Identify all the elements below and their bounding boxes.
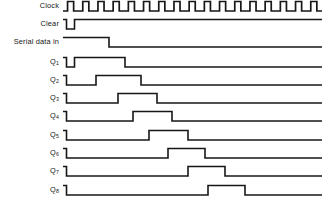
timing-diagram-canvas: ClockClearSerial data inQ1Q2Q3Q4Q5Q6Q7Q8 [0,0,324,212]
timing-diagram: ClockClearSerial data inQ1Q2Q3Q4Q5Q6Q7Q8 [0,0,324,212]
waveform-clear [63,20,322,30]
waveform-q3 [63,94,322,104]
signal-label-serial-data-in: Serial data in [14,37,59,46]
signal-label-subscript-q7: 7 [56,170,59,176]
signal-label-subscript-q4: 4 [56,115,59,121]
signal-label-q6: Q6 [50,148,59,157]
signal-label-subscript-q2: 2 [56,79,59,85]
signal-label-q4: Q4 [50,111,59,120]
waveform-q8 [63,186,322,196]
signal-label-clock: Clock [40,1,59,10]
waveform-q4 [63,112,322,122]
waveform-column [63,2,322,196]
signal-label-q7: Q7 [50,166,59,175]
signal-label-subscript-q3: 3 [56,97,59,103]
signal-label-subscript-q1: 1 [56,61,59,67]
signal-label-q2: Q2 [50,75,59,84]
signal-label-subscript-q5: 5 [56,134,59,140]
waveform-q2 [63,76,322,86]
signal-label-q1: Q1 [50,57,59,66]
waveform-q5 [63,131,322,141]
signal-label-clear: Clear [41,19,60,28]
signal-label-q8: Q8 [50,185,59,194]
signal-label-q3: Q3 [50,93,59,102]
signal-label-column: ClockClearSerial data inQ1Q2Q3Q4Q5Q6Q7Q8 [14,1,60,194]
signal-label-q5: Q5 [50,130,59,139]
waveform-q6 [63,149,322,159]
signal-label-subscript-q8: 8 [56,189,59,195]
waveform-serial-data-in [63,38,322,48]
waveform-q7 [63,167,322,177]
waveform-clock [63,2,322,12]
waveform-q1 [63,58,322,68]
signal-label-subscript-q6: 6 [56,152,59,158]
